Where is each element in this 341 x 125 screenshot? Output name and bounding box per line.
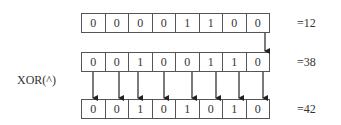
arrows: [0, 0, 341, 125]
